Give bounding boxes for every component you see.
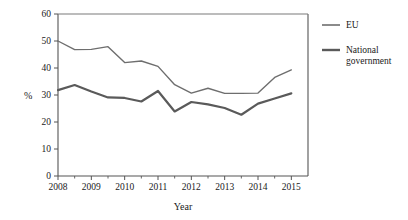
x-tick-label: 2015 <box>282 182 301 192</box>
chart-figure: 0102030405060 20082009201020112012201320… <box>0 0 408 220</box>
data-line-national-government <box>58 85 291 115</box>
x-tick-label: 2011 <box>149 182 168 192</box>
x-tick-label: 2008 <box>49 182 68 192</box>
x-axis-title: Year <box>174 201 193 212</box>
chart-legend: EU National government <box>322 20 392 66</box>
x-tick-label: 2012 <box>182 182 201 192</box>
y-axis-ticks: 0102030405060 <box>42 9 59 181</box>
y-tick-label: 30 <box>42 90 52 100</box>
x-tick-label: 2014 <box>249 182 268 192</box>
y-tick-label: 10 <box>42 144 52 154</box>
y-tick-label: 60 <box>42 9 52 19</box>
y-tick-label: 50 <box>42 36 52 46</box>
x-tick-label: 2009 <box>82 182 101 192</box>
x-tick-label: 2013 <box>215 182 234 192</box>
x-tick-label: 2010 <box>115 182 134 192</box>
plot-frame <box>58 14 308 176</box>
y-tick-label: 0 <box>46 171 51 181</box>
y-tick-label: 20 <box>42 117 52 127</box>
y-axis-title: % <box>24 90 32 101</box>
data-line-eu <box>58 41 291 93</box>
legend-label-national-government: National <box>346 45 379 55</box>
y-tick-label: 40 <box>42 63 52 73</box>
legend-label-national-government-line2: government <box>346 56 392 66</box>
legend-label-eu: EU <box>346 20 359 30</box>
line-chart: 0102030405060 20082009201020112012201320… <box>0 0 408 220</box>
data-series-group <box>58 41 291 115</box>
